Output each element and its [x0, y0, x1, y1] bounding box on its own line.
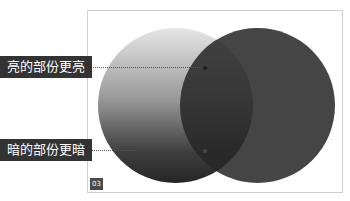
figure-number-badge: 03: [90, 178, 103, 190]
dark-label: 暗的部份更暗: [0, 139, 92, 161]
bright-point-marker: [203, 66, 207, 70]
bright-leader-line: [75, 67, 202, 68]
dark-circle: [180, 28, 335, 183]
dark-point-marker: [203, 149, 207, 153]
diagram-frame: 03: [87, 10, 343, 193]
bright-label: 亮的部份更亮: [0, 56, 92, 78]
